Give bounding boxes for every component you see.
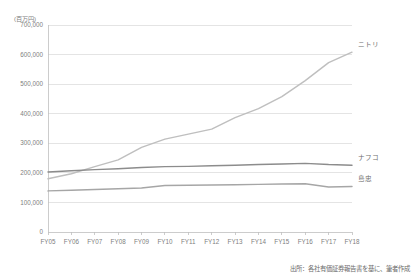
x-axis-tick-label: FY08 [111, 238, 127, 245]
data-series-lines [48, 52, 352, 191]
y-axis-tick-label: 200,000 [20, 169, 43, 176]
gridlines [48, 25, 352, 232]
x-axis-tick-label: FY07 [87, 238, 103, 245]
x-axis-tick-label: FY05 [40, 238, 56, 245]
series-end-labels: ニトリナフコ島忠 [358, 41, 379, 183]
series-label-shimachu: 島忠 [358, 174, 372, 183]
chart-plot-area: 0100,000200,000300,000400,000500,000600,… [0, 0, 418, 278]
y-axis-tick-label: 0 [39, 228, 43, 235]
y-axis-ticks: 0100,000200,000300,000400,000500,000600,… [20, 21, 43, 235]
x-axis-tick-label: FY14 [251, 238, 267, 245]
x-axis-tick-label: FY10 [157, 238, 173, 245]
x-axis-tick-label: FY11 [181, 238, 196, 245]
x-axis-tick-label: FY13 [228, 238, 244, 245]
y-axis-tick-label: 600,000 [20, 51, 43, 58]
y-axis-tick-label: 500,000 [20, 80, 43, 87]
x-axis-tick-label: FY12 [204, 238, 220, 245]
y-axis-tick-label: 700,000 [20, 21, 43, 28]
x-axis-tick-label: FY09 [134, 238, 150, 245]
x-axis-tick-label: FY06 [64, 238, 80, 245]
x-axis-tick-label: FY18 [344, 238, 360, 245]
series-label-nafco: ナフコ [358, 154, 379, 161]
x-axis-tick-label: FY15 [274, 238, 290, 245]
series-line-nitori [48, 52, 352, 179]
x-axis-tick-label: FY16 [298, 238, 314, 245]
line-chart: (百万円) 0100,000200,000300,000400,000500,0… [0, 0, 418, 278]
x-axis-tick-label: FY17 [321, 238, 337, 245]
x-axis-ticks: FY05FY06FY07FY08FY09FY10FY11FY12FY13FY14… [40, 232, 360, 245]
series-label-nitori: ニトリ [358, 41, 379, 48]
y-axis-tick-label: 100,000 [20, 199, 43, 206]
source-note: 出所：各社有価証券報告書を基に、筆者作成 [290, 264, 410, 273]
y-axis-tick-label: 400,000 [20, 110, 43, 117]
series-line-shimachu [48, 184, 352, 191]
y-axis-tick-label: 300,000 [20, 139, 43, 146]
